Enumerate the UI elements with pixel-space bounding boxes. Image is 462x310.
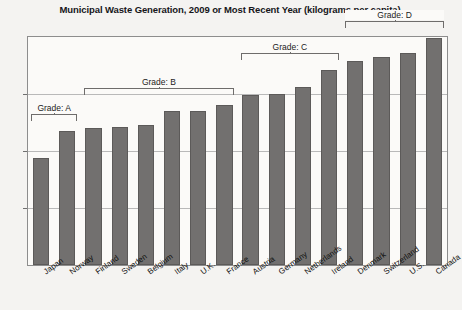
bar[interactable] xyxy=(242,95,258,265)
grade-label: Grade: A xyxy=(31,103,77,113)
bar[interactable] xyxy=(85,128,101,265)
bar-slot xyxy=(395,37,421,265)
bar-slot xyxy=(211,37,237,265)
bar-slot xyxy=(159,37,185,265)
grade-bracket: Grade: B xyxy=(84,80,235,102)
bar-slot xyxy=(342,37,368,265)
bar[interactable] xyxy=(216,105,232,265)
bar[interactable] xyxy=(190,111,206,265)
bar[interactable] xyxy=(295,87,311,265)
bar[interactable] xyxy=(321,70,337,265)
bar[interactable] xyxy=(400,53,416,265)
bar-slot xyxy=(368,37,394,265)
grade-label: Grade: D xyxy=(345,10,443,20)
y-axis-tick xyxy=(23,208,27,209)
grade-bracket: Grade: D xyxy=(345,13,443,35)
bar-slot xyxy=(80,37,106,265)
grade-label: Grade: B xyxy=(84,77,235,87)
bar-slot xyxy=(54,37,80,265)
bar-slot xyxy=(133,37,159,265)
bar[interactable] xyxy=(164,111,180,265)
grade-bracket: Grade: C xyxy=(241,45,339,67)
bar[interactable] xyxy=(138,125,154,265)
bar-slot xyxy=(264,37,290,265)
bar-slot xyxy=(185,37,211,265)
bar-slot xyxy=(316,37,342,265)
bar[interactable] xyxy=(347,61,363,265)
bracket-line xyxy=(241,53,339,60)
bar[interactable] xyxy=(59,131,75,265)
bracket-line xyxy=(345,21,443,28)
bar-slot xyxy=(290,37,316,265)
grade-bracket: Grade: A xyxy=(31,106,77,128)
bracket-line xyxy=(84,88,235,95)
bar[interactable] xyxy=(373,57,389,265)
bar[interactable] xyxy=(269,94,285,265)
bracket-line xyxy=(31,114,77,121)
y-axis-tick xyxy=(23,151,27,152)
bar[interactable] xyxy=(33,158,49,265)
grade-label: Grade: C xyxy=(241,42,339,52)
bar-slot xyxy=(421,37,447,265)
bar-series xyxy=(28,37,447,265)
bar-slot xyxy=(28,37,54,265)
bar-slot xyxy=(238,37,264,265)
bar[interactable] xyxy=(426,38,442,265)
bar-slot xyxy=(107,37,133,265)
bar[interactable] xyxy=(112,127,128,265)
y-axis-tick xyxy=(23,94,27,95)
